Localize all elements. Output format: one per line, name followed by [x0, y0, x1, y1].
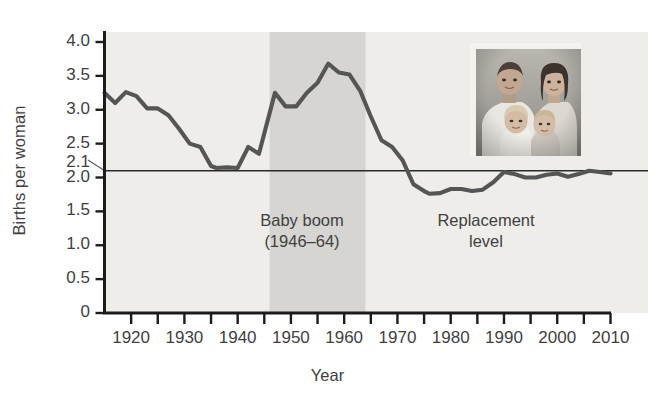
baby-boom-annotation-line2: (1946–64)	[228, 231, 376, 252]
x-axis-tick-label: 1980	[423, 328, 479, 348]
y-axis-tick-label: 4.0	[40, 31, 90, 51]
x-axis-tick-label: 1970	[369, 328, 425, 348]
x-axis-ticks	[131, 313, 610, 324]
y-axis-tick-label: 1.0	[40, 234, 90, 254]
replacement-annotation-line1: Replacement	[406, 210, 566, 231]
replacement-level-annotation: Replacement level	[406, 210, 566, 252]
y-axis-tick-label: 0.5	[40, 268, 90, 288]
y-axis-tick-label: 3.5	[40, 65, 90, 85]
x-axis-tick-label: 1950	[263, 328, 319, 348]
x-axis-tick-label: 1920	[103, 328, 159, 348]
baby-boom-annotation: Baby boom (1946–64)	[228, 210, 376, 252]
y-axis-tick-label: 3.0	[40, 99, 90, 119]
family-portrait-photo	[470, 43, 581, 156]
y-axis-tick-label: 0	[40, 302, 90, 322]
y-axis-replacement-tick-label: 2.1	[40, 152, 90, 172]
baby-boom-annotation-line1: Baby boom	[228, 210, 376, 231]
x-axis-title: Year	[271, 366, 384, 385]
y-axis-tick-label: 1.5	[40, 200, 90, 220]
x-axis-tick-label: 1960	[316, 328, 372, 348]
x-axis-tick-label: 1940	[210, 328, 266, 348]
x-axis-tick-label: 2010	[583, 328, 639, 348]
x-axis-tick-label: 1990	[476, 328, 532, 348]
family-portrait-photo-image	[476, 49, 581, 156]
replacement-leader-line	[88, 160, 105, 171]
x-axis-tick-label: 1930	[156, 328, 212, 348]
fertility-rate-figure: Births per woman 00.51.01.52.02.53.03.54…	[0, 0, 655, 416]
x-axis-tick-label: 2000	[529, 328, 585, 348]
family-portrait-illustration	[476, 49, 581, 156]
y-axis-tick-label: 2.5	[40, 133, 90, 153]
replacement-annotation-line2: level	[406, 231, 566, 252]
